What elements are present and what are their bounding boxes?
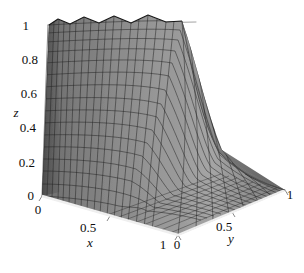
z-tick-label-0p6: 0.6: [21, 86, 38, 101]
z-tick-label-0p4: 0.4: [20, 120, 37, 135]
x-tick-label-0: 0: [35, 202, 42, 217]
y-tick-label-1: 1: [287, 187, 294, 202]
surface-3d: [42, 15, 285, 235]
z-tick-label-1: 1: [23, 18, 30, 33]
z-tick-label-0p8: 0.8: [22, 52, 38, 67]
x-tick-label-1: 1: [160, 237, 167, 252]
z-axis-title: z: [12, 105, 18, 120]
z-tick-label-0p2: 0.2: [19, 155, 35, 170]
plot-canvas: 1 0.8 0.6 0.4 0.2 0 z 0 0.5 1 x 0 0.5 1 …: [0, 0, 304, 273]
surface-plot-figure: 1 0.8 0.6 0.4 0.2 0 z 0 0.5 1 x 0 0.5 1 …: [0, 0, 304, 273]
z-tick-label-0: 0: [28, 188, 35, 203]
y-axis-title: y: [226, 231, 234, 246]
x-tick-0p5: [107, 216, 110, 221]
x-tick-label-0p5: 0.5: [80, 220, 96, 235]
x-axis-title: x: [86, 235, 93, 250]
x-tick-0: [39, 196, 42, 201]
y-tick-label-0: 0: [174, 237, 181, 252]
